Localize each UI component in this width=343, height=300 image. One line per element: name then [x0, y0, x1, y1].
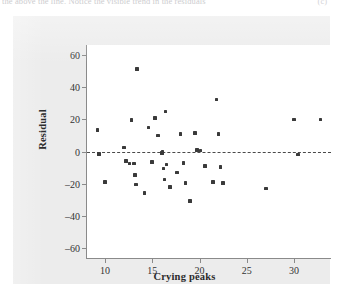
figure-panel: Residual –60–40–2002040601015202530 Cryi…: [13, 16, 330, 284]
x-axis-tick: [152, 258, 153, 263]
data-point: [163, 178, 167, 182]
plot-inner: –60–40–2002040601015202530: [87, 45, 331, 258]
y-axis-tick-label: 0: [75, 146, 80, 157]
y-axis-tick: [82, 152, 87, 153]
data-point: [175, 171, 179, 175]
plot-area: –60–40–2002040601015202530: [86, 45, 331, 259]
data-point: [221, 181, 225, 185]
page-text-fragment: the above the line. Notice the visible t…: [0, 0, 343, 13]
data-point: [97, 152, 101, 156]
y-axis-tick-label: –20: [65, 178, 80, 189]
y-axis-tick: [82, 184, 87, 185]
data-point: [264, 187, 268, 191]
data-point: [296, 153, 300, 157]
y-axis-tick-label: 20: [70, 114, 80, 125]
zero-reference-line: [87, 152, 331, 153]
y-axis-tick: [82, 248, 87, 249]
page-text-fragment-line: the above the line. Notice the visible t…: [2, 0, 206, 6]
data-point: [168, 185, 172, 189]
data-point: [103, 180, 107, 184]
data-point: [164, 110, 168, 114]
y-axis-tick: [82, 119, 87, 120]
y-axis-tick: [82, 55, 87, 56]
data-point: [147, 126, 151, 130]
page-text-fragment-number: (c): [318, 0, 327, 6]
data-point: [188, 199, 192, 203]
data-point: [319, 118, 323, 122]
data-point: [182, 161, 186, 165]
data-point: [219, 165, 223, 169]
data-point: [153, 116, 157, 120]
data-point: [161, 150, 165, 154]
data-point: [193, 131, 197, 135]
data-point: [179, 132, 183, 136]
data-point: [130, 118, 134, 122]
data-point: [156, 134, 160, 138]
data-point: [217, 132, 221, 136]
data-point: [132, 162, 136, 166]
data-point: [215, 98, 219, 102]
x-axis-title: Crying peaks: [13, 271, 343, 282]
data-point: [128, 162, 132, 166]
x-axis-tick: [200, 258, 201, 263]
y-axis-tick-label: –60: [65, 242, 80, 253]
data-point: [135, 67, 139, 71]
y-axis-tick-label: –40: [65, 210, 80, 221]
data-point: [150, 160, 154, 164]
data-point: [122, 146, 126, 150]
y-axis-tick-label: 40: [70, 82, 80, 93]
data-point: [143, 191, 147, 195]
data-point: [134, 183, 138, 187]
y-axis-tick-label: 60: [70, 50, 80, 61]
data-point: [203, 164, 207, 168]
x-axis-tick: [247, 258, 248, 263]
data-point: [124, 159, 128, 163]
data-point: [96, 128, 100, 132]
y-axis-title: Residual: [37, 95, 48, 165]
data-point: [211, 180, 215, 184]
x-axis-tick: [294, 258, 295, 263]
data-point: [165, 163, 169, 167]
data-point: [133, 173, 137, 177]
data-point: [292, 118, 296, 122]
data-point: [184, 181, 188, 185]
data-point: [162, 167, 166, 171]
y-axis-tick: [82, 87, 87, 88]
data-point: [195, 148, 199, 152]
y-axis-tick: [82, 216, 87, 217]
x-axis-tick: [105, 258, 106, 263]
